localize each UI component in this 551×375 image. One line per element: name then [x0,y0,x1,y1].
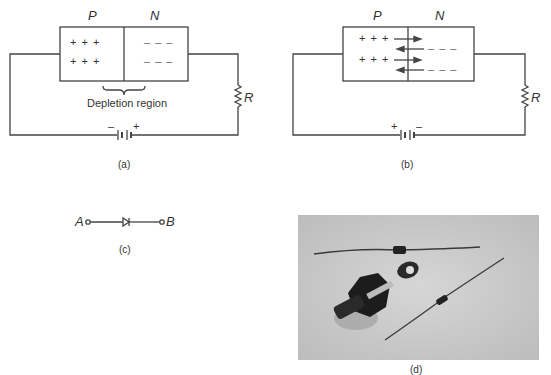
battery-negative-label-a: – [108,120,114,132]
battery-positive-label-a: + [133,120,139,132]
diode-icon [123,218,129,226]
p-charges-row-1-a: + + + [70,36,100,48]
caption-a: (a) [118,159,130,170]
battery-negative-label-b: – [416,120,422,132]
battery-positive-label-b: + [391,120,397,132]
figure-c-diode-symbol [86,218,164,226]
p-charges-row-2-a: + + + [70,55,100,67]
n-charges-row-1-a: – – – [144,36,173,48]
depletion-brace [103,86,145,95]
p-charges-row-1-b: + + + [359,32,389,44]
figure-b-circuit [293,27,528,140]
n-charges-row-1-b: – – – [428,42,457,54]
carrier-arrows [394,37,424,73]
n-charges-row-2-b: – – – [428,63,457,75]
terminal-a-node [86,220,90,224]
resistor-icon-a [235,85,241,107]
p-charges-row-2-b: + + + [359,53,389,65]
caption-d: (d) [410,364,422,375]
resistor-icon-b [522,85,528,107]
figure-a-circuit [10,27,241,140]
photo-content [298,215,539,360]
diode-photograph [298,215,539,360]
caption-b: (b) [401,159,413,170]
n-charges-row-2-a: – – – [144,55,173,67]
terminal-a-label: A [75,214,84,229]
resistor-label-a: R [244,90,253,105]
n-region-label-b: N [435,8,444,23]
terminal-b-node [160,220,164,224]
depletion-region-label: Depletion region [87,97,167,109]
terminal-b-label: B [166,214,175,229]
resistor-label-b: R [531,90,540,105]
battery-icon-b [401,130,414,140]
p-region-label-b: P [373,8,382,23]
n-region-label-a: N [150,8,159,23]
caption-c: (c) [119,244,131,255]
battery-icon-a [118,130,131,140]
p-region-label-a: P [88,8,97,23]
